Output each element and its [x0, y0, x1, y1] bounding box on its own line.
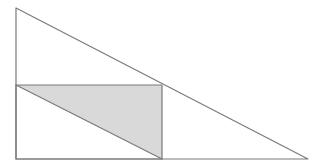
geometry-diagram [0, 0, 326, 168]
